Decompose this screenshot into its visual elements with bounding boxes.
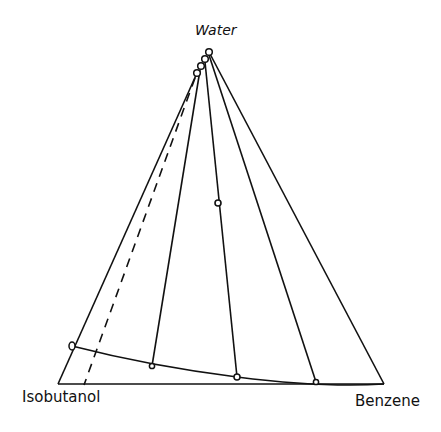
data-point [194, 70, 201, 77]
mixture-point [215, 200, 221, 206]
data-point [198, 63, 205, 70]
data-point [313, 379, 318, 384]
data-point [234, 374, 240, 380]
tie-line-2 [205, 62, 237, 377]
water-rich-points [194, 49, 213, 77]
ternary-diagram: Water Isobutanol Benzene [0, 0, 441, 432]
data-point [69, 342, 75, 350]
edge-left [58, 73, 197, 384]
data-point [206, 49, 213, 56]
data-point [149, 363, 154, 368]
dashed-line [84, 78, 195, 385]
binodal-curve [72, 346, 384, 385]
tie-lines [152, 55, 316, 382]
label-benzene: Benzene [355, 392, 420, 410]
data-point [202, 56, 209, 63]
label-water: Water [195, 22, 238, 38]
label-isobutanol: Isobutanol [22, 388, 100, 406]
organic-rich-points [69, 342, 319, 385]
tie-line-3 [209, 55, 316, 382]
tie-line-1 [152, 70, 200, 366]
edge-right [209, 52, 384, 384]
